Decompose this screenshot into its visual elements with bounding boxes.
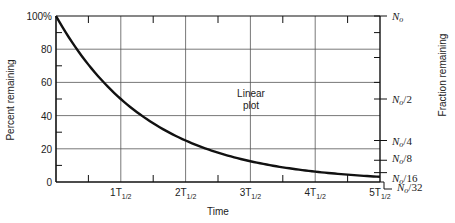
- x-tick-label: 3T1/2: [240, 187, 262, 200]
- x-tick-label: 2T1/2: [175, 187, 197, 200]
- gridlines: [56, 16, 380, 182]
- right-tick: [380, 182, 392, 189]
- y-tick-label: 0: [46, 177, 52, 188]
- y-tick-label: 100%: [26, 11, 52, 22]
- x-axis-label: Time: [207, 206, 229, 217]
- y-tick-label: 60: [41, 77, 53, 88]
- right-tick-label: No/4: [391, 135, 412, 149]
- decay-curve: [56, 16, 380, 177]
- right-tick-label: No: [391, 10, 403, 24]
- annotation-linear: Linear: [237, 88, 265, 99]
- right-tick-label: No/32: [396, 181, 422, 195]
- right-axis-label: Fraction remaining: [437, 34, 448, 117]
- y-tick-label: 20: [41, 144, 53, 155]
- y-tick-label: 40: [41, 111, 53, 122]
- y-axis-label: Percent remaining: [5, 59, 16, 140]
- x-tick-label: 4T1/2: [304, 187, 326, 200]
- x-tick-label: 1T1/2: [110, 187, 132, 200]
- y-tick-label: 80: [41, 44, 53, 55]
- axes: [56, 16, 380, 182]
- right-tick-label: No/2: [391, 93, 412, 107]
- decay-chart: 020406080100% 1T1/22T1/23T1/24T1/25T1/2 …: [0, 0, 455, 223]
- annotation-plot: plot: [243, 100, 259, 111]
- right-tick-label: No/8: [391, 152, 412, 166]
- x-axis-ticks: 1T1/22T1/23T1/24T1/25T1/2: [110, 187, 391, 200]
- y-axis-ticks: 020406080100%: [26, 11, 52, 188]
- right-axis-ticks: NoNo/2No/4No/8No/16No/32: [374, 10, 422, 195]
